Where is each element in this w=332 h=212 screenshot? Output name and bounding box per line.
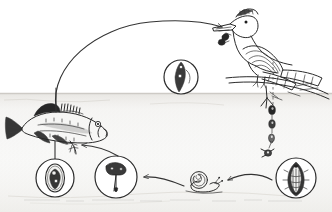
life-cycle-diagram: Trematode (fluke) life cycle bird (defin… bbox=[0, 0, 332, 212]
metacercaria-inset bbox=[36, 159, 74, 197]
miracidium-inset bbox=[276, 158, 316, 198]
cercaria-inset bbox=[95, 156, 137, 198]
diagram-canvas bbox=[0, 0, 332, 212]
adult-fluke-inset bbox=[164, 60, 198, 94]
